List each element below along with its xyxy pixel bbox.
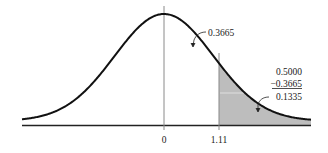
calc-line-2: −0.3665 — [271, 79, 303, 89]
calc-line-1: 0.5000 — [276, 67, 302, 77]
calc-line-3: 0.1335 — [276, 92, 302, 102]
tick-label-zero: 0 — [162, 135, 167, 145]
normal-distribution-chart: 0 1.11 0.3665 0.5000 −0.3665 0.1335 — [0, 0, 328, 153]
tick-label-z: 1.11 — [211, 135, 228, 145]
area-center-label: 0.3665 — [208, 28, 234, 38]
normal-curve — [22, 14, 311, 120]
